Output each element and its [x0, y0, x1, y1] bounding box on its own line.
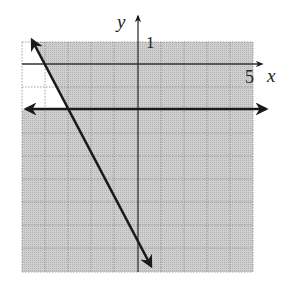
y-axis-label: y [115, 11, 126, 32]
x-axis-label: x [266, 65, 276, 86]
x-tick-label-5: 5 [245, 67, 254, 87]
inequality-graph: y 1 5 x [0, 0, 291, 285]
y-tick-label-1: 1 [146, 33, 155, 52]
